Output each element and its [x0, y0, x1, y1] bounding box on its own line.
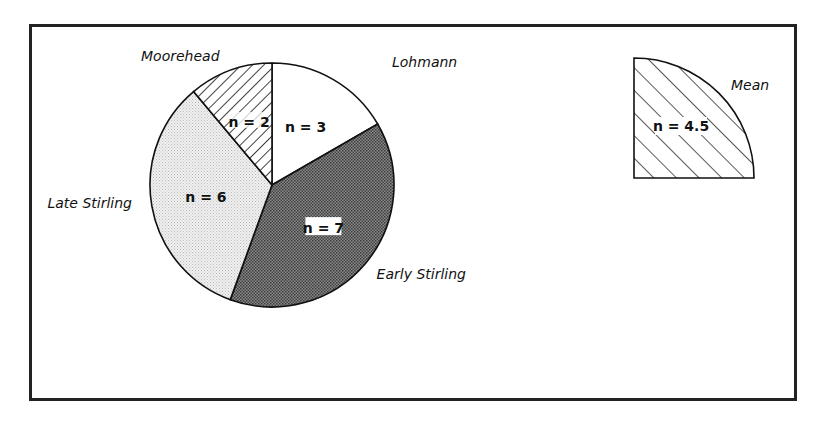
slice-count-label: n = 6 — [185, 189, 226, 205]
slice-name-label: Late Stirling — [47, 195, 132, 211]
slice-count-label: n = 7 — [303, 220, 344, 236]
slice-name-label: Early Stirling — [377, 266, 466, 282]
mean-count-label: n = 4.5 — [653, 118, 709, 134]
slice-count-label: n = 3 — [285, 119, 326, 135]
slice-name-label: Lohmann — [392, 54, 457, 70]
slice-name-label: Moorehead — [141, 48, 220, 64]
pie-chart: n = 3Lohmannn = 7Early Stirlingn = 6Late… — [0, 0, 830, 425]
mean-name-label: Mean — [731, 77, 769, 93]
slice-count-label: n = 2 — [228, 114, 269, 130]
